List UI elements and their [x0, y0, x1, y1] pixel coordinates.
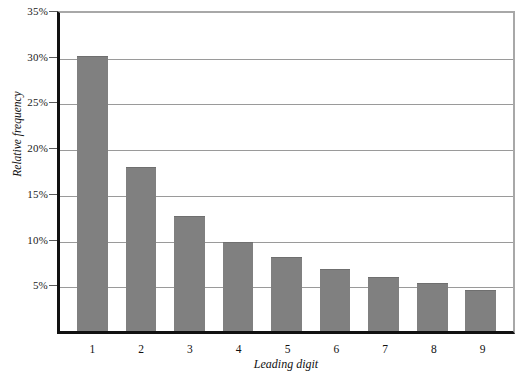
- y-axis-tick-label: 30%: [2, 51, 48, 63]
- y-axis-tick-mark: [49, 240, 57, 241]
- x-axis-tick-label: 8: [431, 343, 437, 355]
- y-axis-tick-label: 10%: [2, 234, 48, 246]
- bar: [223, 242, 254, 331]
- y-axis-tick-mark: [49, 194, 57, 195]
- x-slot: 6: [312, 339, 361, 357]
- y-axis-tick-labels: 5%10%15%20%25%30%35%: [0, 11, 52, 334]
- bar: [271, 257, 302, 331]
- x-slot: 7: [361, 339, 410, 357]
- bar-slot: [68, 13, 117, 331]
- x-axis-tick-label: 4: [236, 343, 242, 355]
- bar: [417, 283, 448, 332]
- x-slot: 1: [68, 339, 117, 357]
- bar-slot: [457, 13, 506, 331]
- bar-chart: Relative frequency 5%10%15%20%25%30%35% …: [0, 0, 524, 376]
- x-slot: 8: [409, 339, 458, 357]
- x-axis-tick-label: 5: [285, 343, 291, 355]
- bar-slot: [359, 13, 408, 331]
- y-axis-tick-label: 35%: [2, 5, 48, 17]
- x-axis-tick-label: 6: [333, 343, 339, 355]
- y-axis-tick-mark: [49, 148, 57, 149]
- bar: [465, 290, 496, 331]
- x-axis-tick-label: 3: [187, 343, 193, 355]
- x-slot: 3: [166, 339, 215, 357]
- y-axis-tick-label: 15%: [2, 188, 48, 200]
- y-axis-tick-mark: [49, 11, 57, 12]
- plot-area: [60, 13, 513, 331]
- x-axis-tick-label: 2: [138, 343, 144, 355]
- bar: [368, 277, 399, 331]
- y-axis-tick-label: 5%: [2, 279, 48, 291]
- bar: [77, 56, 108, 331]
- bar-slot: [165, 13, 214, 331]
- bar: [320, 269, 351, 331]
- x-slot: 5: [263, 339, 312, 357]
- bar: [126, 167, 157, 331]
- x-axis-tick-label: 7: [382, 343, 388, 355]
- y-axis-tick-label: 25%: [2, 96, 48, 108]
- bars-group: [60, 13, 513, 331]
- x-axis-tick-label: 1: [90, 343, 96, 355]
- x-slot: 4: [214, 339, 263, 357]
- y-axis-tick-mark: [49, 57, 57, 58]
- y-axis-tick-label: 20%: [2, 142, 48, 154]
- y-axis-tick-mark: [49, 285, 57, 286]
- x-slot: 2: [117, 339, 166, 357]
- bar-slot: [311, 13, 360, 331]
- bar-slot: [408, 13, 457, 331]
- y-axis-tick-mark: [49, 102, 57, 103]
- x-axis-tick-labels: 123456789: [60, 339, 515, 357]
- x-slot: 9: [458, 339, 507, 357]
- x-axis-tick-label: 9: [480, 343, 486, 355]
- bar-slot: [117, 13, 166, 331]
- x-axis-title: Leading digit: [57, 357, 515, 372]
- bar-slot: [214, 13, 263, 331]
- plot-frame: [57, 11, 515, 334]
- bar: [174, 216, 205, 331]
- bar-slot: [262, 13, 311, 331]
